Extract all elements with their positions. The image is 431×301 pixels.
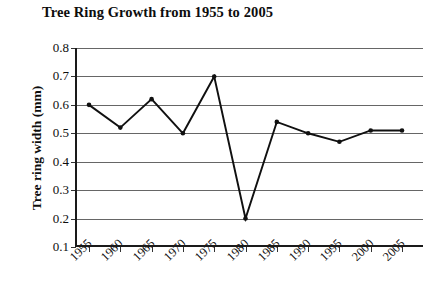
data-point [149, 97, 154, 102]
data-point [87, 103, 92, 108]
chart-figure: Tree Ring Growth from 1955 to 2005 Tree … [0, 0, 431, 301]
data-series-line [75, 48, 423, 247]
series-polyline [89, 76, 402, 218]
y-axis-tick-label: 0.6 [53, 97, 69, 113]
data-point [306, 131, 311, 136]
data-point [368, 128, 373, 133]
y-axis-tick-label: 0.5 [53, 125, 69, 141]
data-point [181, 131, 186, 136]
y-axis-tick-label: 0.3 [53, 182, 69, 198]
data-point [212, 74, 217, 79]
plot-area: 0.80.70.60.50.40.30.20.1 195519601965197… [75, 48, 423, 247]
chart-title: Tree Ring Growth from 1955 to 2005 [42, 4, 422, 21]
y-axis-line [75, 48, 77, 247]
data-point [243, 216, 248, 221]
y-axis-tick-label: 0.4 [53, 154, 69, 170]
data-point [400, 128, 405, 133]
y-axis-tick-label: 0.7 [53, 68, 69, 84]
series-markers [87, 74, 405, 221]
y-axis-title: Tree ring width (mm) [29, 43, 45, 253]
data-point [275, 120, 280, 125]
y-axis-tick-label: 0.8 [53, 40, 69, 56]
y-axis-tick-label: 0.2 [53, 211, 69, 227]
data-point [337, 140, 342, 145]
x-axis-line [75, 245, 423, 247]
data-point [118, 125, 123, 130]
